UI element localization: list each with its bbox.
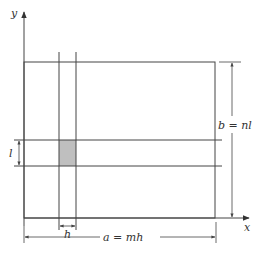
h-dimension-label: h [64,228,71,241]
shaded-cell [59,140,76,166]
b-dimension-label: b = nl [218,119,252,132]
x-axis-label: x [244,221,251,234]
y-axis-label: y [10,7,18,20]
a-dimension-label: a = mh [103,231,143,244]
l-dimension-label: l [9,147,13,160]
grid-cell-diagram: y x b = nl a = mh h l [0,0,263,262]
